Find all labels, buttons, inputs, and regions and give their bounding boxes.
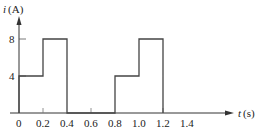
x-tick-label: 1.2 [156, 117, 170, 129]
x-tick-label: 0.6 [84, 117, 98, 129]
y-tick-label: 8 [9, 33, 15, 45]
x-axis-label: t(s) [238, 107, 255, 120]
current-waveform-chart: i(A) 8 4 0 0.2 0.4 0.6 0.8 1.0 1.2 1.4 t… [0, 0, 263, 135]
x-tick-label: 0 [16, 117, 22, 129]
x-tick-label: 1.0 [132, 117, 146, 129]
x-tick-label: 0.2 [36, 117, 50, 129]
x-ticks [43, 108, 163, 113]
x-tick-label: 1.4 [180, 117, 194, 129]
current-waveform-line [19, 39, 163, 113]
y-axis-arrow-icon [17, 16, 22, 25]
y-tick-label: 4 [9, 70, 15, 82]
y-axis-label: i(A) [3, 3, 24, 16]
x-tick-label: 0.4 [60, 117, 74, 129]
x-tick-label: 0.8 [108, 117, 122, 129]
x-axis-arrow-icon [225, 111, 234, 116]
